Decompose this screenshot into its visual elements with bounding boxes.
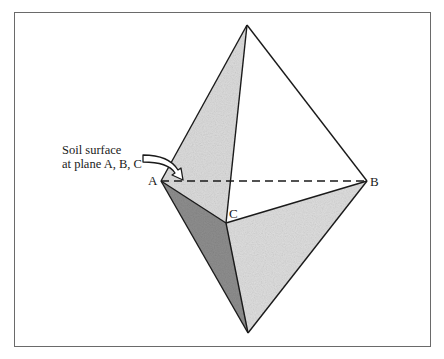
callout-line-2: at plane A, B, C	[62, 157, 142, 171]
vertex-label-a: A	[148, 173, 158, 188]
soil-surface-callout: Soil surface at plane A, B, C	[62, 143, 142, 171]
bipyramid-diagram: A B C	[0, 0, 444, 359]
callout-line-1: Soil surface	[62, 143, 142, 157]
vertex-label-c: C	[229, 206, 238, 221]
vertex-label-b: B	[370, 174, 379, 189]
